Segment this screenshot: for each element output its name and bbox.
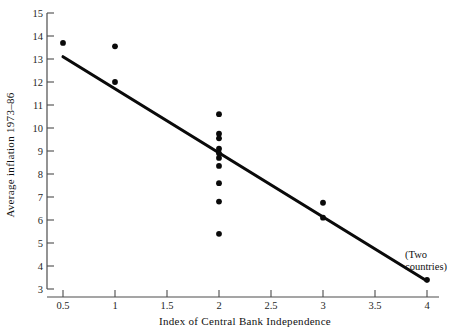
y-tick-label: 15 xyxy=(33,8,44,19)
y-tick-label: 6 xyxy=(38,215,43,226)
y-axis: 3456789101112131415 xyxy=(33,8,55,295)
x-axis: 0.511.522.533.54 xyxy=(47,290,439,311)
chart-canvas: 3456789101112131415 0.511.522.533.54 (Tw… xyxy=(0,0,461,331)
x-tick-label: 2 xyxy=(216,300,221,311)
y-tick-label: 7 xyxy=(38,192,43,203)
trend-line xyxy=(63,57,427,281)
x-tick-label: 1.5 xyxy=(160,300,173,311)
data-point xyxy=(216,155,222,161)
y-tick-label: 4 xyxy=(38,261,44,272)
data-point xyxy=(112,79,118,85)
data-point xyxy=(216,163,222,169)
data-point xyxy=(112,43,118,49)
data-point xyxy=(320,200,326,206)
data-point xyxy=(424,277,430,283)
y-tick-label: 8 xyxy=(38,169,43,180)
data-point xyxy=(216,180,222,186)
y-tick-label: 13 xyxy=(33,54,44,65)
data-points xyxy=(60,40,430,283)
scatter-chart: 3456789101112131415 0.511.522.533.54 (Tw… xyxy=(0,0,461,331)
data-point xyxy=(216,111,222,117)
y-axis-title: Average inflation 1973–86 xyxy=(4,92,16,217)
x-tick-label: 3 xyxy=(320,300,325,311)
two-countries-note: (Two xyxy=(405,249,427,261)
y-tick-label: 14 xyxy=(33,31,44,42)
data-point xyxy=(216,199,222,205)
y-tick-label: 12 xyxy=(33,77,44,88)
x-tick-label: 3.5 xyxy=(368,300,381,311)
x-axis-title: Index of Central Bank Independence xyxy=(159,315,331,327)
two-countries-note-line2: countries) xyxy=(405,261,447,273)
regression-line xyxy=(63,57,427,281)
y-tick-label: 11 xyxy=(33,100,43,111)
data-point xyxy=(216,231,222,237)
y-tick-label: 10 xyxy=(33,123,44,134)
chart-annotations: (Twocountries) xyxy=(405,249,447,273)
data-point xyxy=(320,215,326,221)
y-tick-label: 3 xyxy=(38,284,43,295)
data-point xyxy=(216,135,222,141)
x-tick-label: 0.5 xyxy=(56,300,69,311)
data-point xyxy=(60,40,66,46)
y-tick-label: 9 xyxy=(38,146,43,157)
x-tick-label: 4 xyxy=(424,300,430,311)
x-tick-label: 2.5 xyxy=(264,300,277,311)
x-tick-label: 1 xyxy=(112,300,117,311)
y-tick-label: 5 xyxy=(38,238,43,249)
